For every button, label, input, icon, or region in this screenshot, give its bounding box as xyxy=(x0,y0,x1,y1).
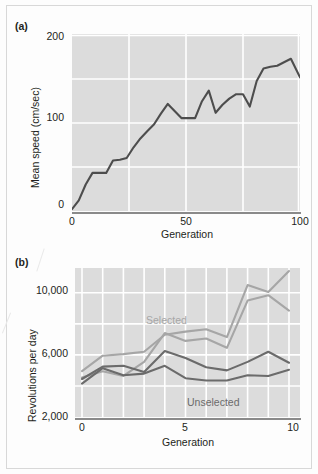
panel-b-plot-area xyxy=(75,268,300,417)
panel-a-x-axis-line xyxy=(72,212,301,214)
panel-b-ytick-10000: 10,000 xyxy=(0,284,68,296)
panel-a-x-axis-label: Generation xyxy=(132,228,242,240)
panel-a-ytick-100: 100 xyxy=(24,111,64,123)
panel-b-xtick-10: 10 xyxy=(280,421,306,433)
panel-a-y-axis-label: Mean speed (cm/sec) xyxy=(29,87,41,188)
panel-b-selected-annotation: Selected xyxy=(146,314,187,326)
scan-artifact-1 xyxy=(36,248,44,271)
panel-a-ytick-200: 200 xyxy=(24,30,64,42)
panel-a-xtick-50: 50 xyxy=(176,215,196,227)
panel-a: (a) Mean speed (cm/sec) 200 100 0 xyxy=(0,0,318,240)
panel-b-unselected-annotation: Unselected xyxy=(187,396,240,408)
panel-b-xtick-0: 0 xyxy=(72,421,92,433)
panel-a-xtick-0: 0 xyxy=(62,215,82,227)
panel-a-plot-area xyxy=(72,34,300,211)
panel-a-chart-svg xyxy=(72,34,300,211)
panel-b-xtick-5: 5 xyxy=(175,421,195,433)
panel-b-x-axis-label: Generation xyxy=(133,436,243,448)
panel-b-ytick-2000: 2,000 xyxy=(0,410,68,422)
figure-container: (a) Mean speed (cm/sec) 200 100 0 xyxy=(0,0,318,474)
panel-b-y-axis-label: Revolutions per day xyxy=(26,329,38,422)
panel-b-chart-svg xyxy=(75,268,300,417)
panel-b-ytick-6000: 6,000 xyxy=(0,347,68,359)
panel-b-letter: (b) xyxy=(15,256,28,268)
panel-b-x-axis-line xyxy=(75,418,301,420)
scan-artifact-2 xyxy=(2,313,11,334)
panel-a-ytick-0: 0 xyxy=(24,198,64,210)
panel-b: (b) Revolutions per day 10,000 6,000 2,0… xyxy=(0,240,318,474)
panel-a-gridlines xyxy=(72,34,300,211)
panel-a-xtick-100: 100 xyxy=(286,215,314,227)
